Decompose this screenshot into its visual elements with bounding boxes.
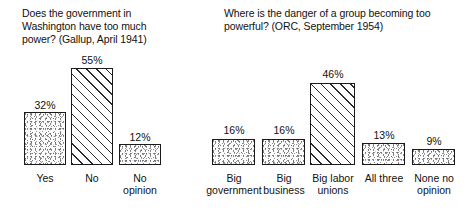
value-label-no-opinion: 12% <box>109 132 171 143</box>
chart-panel-gallup-1941: Does the government in Washington have t… <box>0 0 200 215</box>
value-label-no: 55% <box>61 55 123 66</box>
category-label-none-no-opinion: None no opinion <box>400 172 468 197</box>
chart-panel-orc-1954: Where is the danger of a group becoming … <box>200 0 471 215</box>
bar-none-no-opinion <box>412 149 455 165</box>
bar-big-labor-unions <box>310 83 355 165</box>
plot-area-right: 16% Big government 16% Big business 46% … <box>200 0 471 215</box>
value-label-yes: 32% <box>14 100 76 111</box>
value-label-big-labor-unions: 46% <box>300 69 366 80</box>
bar-no-opinion <box>119 144 161 165</box>
bar-big-business <box>262 139 305 165</box>
plot-area-left: 32% Yes 55% No 12% No opinion <box>0 0 200 215</box>
bar-big-government <box>212 139 255 165</box>
bar-no <box>71 68 113 165</box>
bar-all-three <box>362 143 405 165</box>
value-label-none-no-opinion: 9% <box>402 136 466 147</box>
bar-yes <box>24 112 66 165</box>
category-label-no-opinion: No opinion <box>109 172 171 197</box>
value-label-big-business: 16% <box>252 125 316 136</box>
